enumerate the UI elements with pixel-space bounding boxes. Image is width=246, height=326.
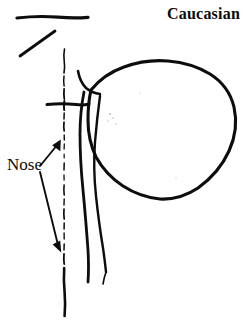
nasal-aperture-outline xyxy=(88,61,236,199)
measurement-arrow-down xyxy=(40,172,61,253)
measurement-arrow-up xyxy=(40,140,61,167)
scan-speckles xyxy=(108,93,177,179)
top-horizontal-rule-stroke xyxy=(17,17,88,18)
inner-profile-curve xyxy=(94,96,106,272)
nose-callout-label: Nose xyxy=(7,156,42,173)
page-title: Caucasian xyxy=(167,6,240,22)
inner-profile-curve-tail xyxy=(103,272,106,284)
upper-diagonal-stroke xyxy=(20,31,55,56)
figure-root: Caucasian Nose xyxy=(0,0,246,326)
vertical-dashed-midline xyxy=(64,49,65,316)
